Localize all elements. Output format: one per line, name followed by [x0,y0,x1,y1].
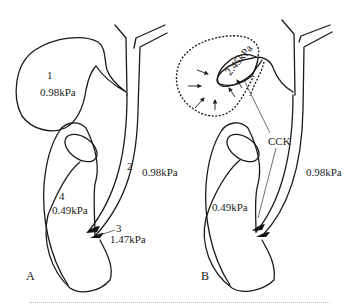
biliary-pressure-diagram: 1 0.98kPa 2 0.98kPa 3 1.47kPa 4 0.49kPa … [0,0,355,307]
gallbladder-pressure-b: 2.45kPa [222,42,254,77]
region-3-pressure: 1.47kPa [110,233,146,245]
gallbladder-a [16,38,126,131]
bile-duct-pressure-b: 0.98kPa [306,166,342,178]
hepatic-duct-left-b [282,20,295,95]
duodenum-pressure-b: 0.49kPa [212,201,248,213]
panel-b: 2.45kPa CCK 0.98kPa 0.49kPa B [176,20,341,291]
region-4-pressure: 0.49kPa [52,204,88,216]
contraction-arrow-5 [229,88,235,97]
region-2-pressure: 0.98kPa [142,166,178,178]
cck-leader-to-gallbladder [244,80,270,133]
hepatic-duct-right-b-top [299,25,330,42]
cck-label: CCK [268,135,291,147]
panel-a: 1 0.98kPa 2 0.98kPa 3 1.47kPa 4 0.49kPa … [16,25,178,292]
sphincter-b-lower [256,232,270,237]
duodenum-lumen-b [222,129,264,168]
contraction-arrow-1 [197,70,208,74]
cck-leader-to-sphincter [258,148,276,218]
duodenum-lumen-a [60,129,102,168]
sphincter-b-upper [252,224,265,231]
panel-label-b: B [201,269,209,283]
region-2-number: 2 [127,160,133,172]
panel-label-a: A [26,269,35,283]
region-1-pressure: 0.98kPa [40,86,76,98]
region-4-number: 4 [59,190,65,202]
figure-caption-cropped [30,302,330,307]
duodenum-outer-a [46,162,111,292]
contraction-arrow-3 [195,98,204,108]
region-1-number: 1 [47,69,53,81]
